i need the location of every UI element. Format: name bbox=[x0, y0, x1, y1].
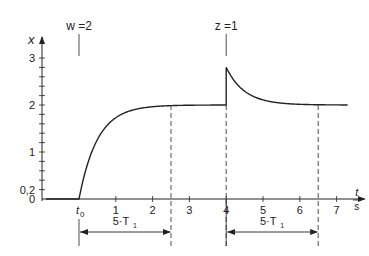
y-tick-label: 0,2 bbox=[20, 184, 35, 196]
annotation-label: z =1 bbox=[215, 19, 238, 33]
x-tick-label: 3 bbox=[186, 204, 192, 216]
interval-label: 5·T bbox=[113, 215, 130, 227]
x-axis-unit: s bbox=[354, 201, 359, 212]
interval-label: 5·T bbox=[260, 215, 277, 227]
t0-subscript: 0 bbox=[80, 210, 85, 219]
y-tick-label: 1 bbox=[29, 146, 35, 158]
x-axis-label: t bbox=[355, 186, 359, 198]
x-tick-label: 2 bbox=[150, 204, 156, 216]
interval-subscript: 1 bbox=[133, 222, 137, 229]
x-tick-label: 6 bbox=[297, 204, 303, 216]
y-axis-label: x bbox=[27, 32, 35, 47]
interval-subscript: 1 bbox=[280, 222, 284, 229]
axes: 00,21231234567t0ts bbox=[20, 37, 365, 219]
y-tick-label: 2 bbox=[29, 99, 35, 111]
x-tick-label: 7 bbox=[334, 204, 340, 216]
annotation-label: w =2 bbox=[65, 19, 92, 33]
y-tick-label: 3 bbox=[29, 52, 35, 64]
step-response-chart: 00,21231234567t0ts w =2z =15·T15·T1 x bbox=[0, 0, 369, 256]
response-curve bbox=[46, 67, 348, 199]
